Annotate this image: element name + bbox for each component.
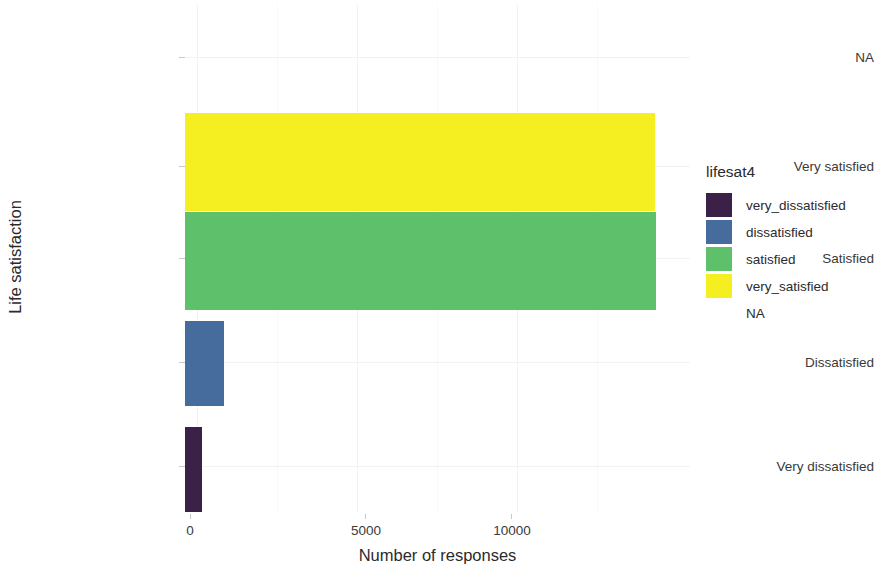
legend-title: lifesat4 xyxy=(706,163,871,181)
legend-item-very-satisfied[interactable]: very_satisfied xyxy=(706,273,871,299)
bar-satisfied xyxy=(185,212,656,310)
bar-very-dissatisfied xyxy=(185,427,202,512)
x-tick-mark xyxy=(511,514,512,519)
x-tick-label-0: 0 xyxy=(186,523,194,538)
gridline-h-dissatisfied xyxy=(185,362,690,363)
legend-swatch-satisfied xyxy=(706,247,732,271)
legend-item-na[interactable]: NA xyxy=(706,300,871,326)
x-tick-label-10000: 10000 xyxy=(493,523,531,538)
legend-item-very-dissatisfied[interactable]: very_dissatisfied xyxy=(706,192,871,218)
legend-label-very-satisfied: very_satisfied xyxy=(746,279,829,294)
legend: lifesat4 very_dissatisfied dissatisfied … xyxy=(706,163,871,327)
gridline-h-na xyxy=(185,57,690,58)
x-tick-mark xyxy=(365,514,366,519)
bar-very-satisfied xyxy=(185,113,655,211)
plot-panel xyxy=(185,5,690,513)
y-tick-label-na: NA xyxy=(709,50,874,65)
legend-label-na: NA xyxy=(746,306,765,321)
legend-label-satisfied: satisfied xyxy=(746,252,796,267)
y-tick-label-very-dissatisfied: Very dissatisfied xyxy=(709,459,874,474)
legend-swatch-na xyxy=(706,301,732,325)
chart-figure: Life satisfaction NA Very satisfied Sati… xyxy=(0,0,874,574)
legend-label-very-dissatisfied: very_dissatisfied xyxy=(746,198,846,213)
y-axis-title: Life satisfaction xyxy=(6,200,25,314)
legend-swatch-very-dissatisfied xyxy=(706,193,732,217)
y-tick-label-dissatisfied: Dissatisfied xyxy=(709,355,874,370)
legend-item-satisfied[interactable]: satisfied xyxy=(706,246,871,272)
legend-item-dissatisfied[interactable]: dissatisfied xyxy=(706,219,871,245)
x-tick-mark xyxy=(190,514,191,519)
legend-label-dissatisfied: dissatisfied xyxy=(746,225,813,240)
gridline-h-very-dissatisfied xyxy=(185,466,690,467)
bar-dissatisfied xyxy=(185,321,224,406)
x-axis-title: Number of responses xyxy=(185,546,690,565)
y-axis-title-container: Life satisfaction xyxy=(0,0,30,514)
x-tick-label-5000: 5000 xyxy=(351,523,381,538)
legend-swatch-very-satisfied xyxy=(706,274,732,298)
legend-swatch-dissatisfied xyxy=(706,220,732,244)
